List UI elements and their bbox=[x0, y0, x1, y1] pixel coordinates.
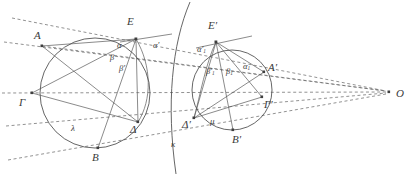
angle-label-alpha-1: α1 bbox=[243, 62, 250, 72]
circle-mu bbox=[192, 50, 272, 130]
marker-Bprime bbox=[232, 129, 235, 132]
point-label-Eprime: E′ bbox=[208, 20, 217, 31]
angle-label-alpha: α bbox=[117, 41, 121, 50]
point-label-Gammaprime: Γ′ bbox=[264, 99, 273, 110]
marker-A bbox=[41, 45, 44, 48]
chord-Eprime-Bprime bbox=[216, 42, 233, 130]
marker-Deltaprime bbox=[193, 117, 196, 120]
point-label-Deltaprime: Δ′ bbox=[182, 119, 191, 130]
marker-Aprime bbox=[263, 71, 266, 74]
marker-Delta bbox=[137, 121, 140, 124]
curve-label-lambda: λ bbox=[71, 124, 75, 133]
marker-B bbox=[97, 147, 100, 150]
point-label-A: A bbox=[34, 30, 41, 41]
point-label-Delta: Δ bbox=[130, 124, 136, 135]
marker-E bbox=[135, 38, 138, 41]
point-label-Gamma: Γ bbox=[19, 97, 25, 108]
marker-O bbox=[388, 91, 391, 94]
point-label-O: O bbox=[396, 88, 404, 99]
marker-Eprime bbox=[215, 41, 218, 44]
curve-label-mu: μ bbox=[210, 117, 215, 126]
point-label-Bprime: B′ bbox=[232, 134, 241, 145]
chords-from-E bbox=[32, 39, 138, 148]
point-label-B: B bbox=[92, 152, 99, 163]
angle-label-beta-1: β1 bbox=[226, 67, 233, 77]
angle-label-beta: β bbox=[110, 53, 114, 62]
tangent-at-E bbox=[120, 34, 172, 42]
chord-E-Delta bbox=[136, 39, 138, 122]
angle-label-alpha-prime-1: α′1 bbox=[197, 45, 206, 55]
angle-label-beta-prime: β′ bbox=[119, 64, 125, 73]
angle-label-beta-prime-1: β′1 bbox=[206, 67, 215, 77]
angle-label-alpha-prime: α′ bbox=[153, 41, 159, 50]
pencil-of-lines bbox=[2, 18, 386, 160]
point-label-E: E bbox=[127, 16, 134, 27]
chord-Deltaprime-Gammaprime bbox=[194, 97, 262, 118]
marker-Gamma bbox=[31, 92, 34, 95]
marker-Gammaprime bbox=[261, 96, 264, 99]
figure-canvas: .solid { fill: none; stroke: #4a4a4a; st… bbox=[0, 0, 412, 176]
point-label-Aprime: A′ bbox=[268, 62, 277, 73]
curve-label-kappa: κ bbox=[171, 140, 175, 149]
pencil-line-through-B bbox=[8, 94, 386, 160]
pencil-line-through-Gamma bbox=[2, 92, 386, 93]
chord-Eprime-Aprime bbox=[216, 42, 264, 72]
point-markers bbox=[31, 38, 391, 150]
chord-Gamma-Delta bbox=[32, 93, 138, 122]
geometry-figure: .solid { fill: none; stroke: #4a4a4a; st… bbox=[0, 0, 412, 176]
